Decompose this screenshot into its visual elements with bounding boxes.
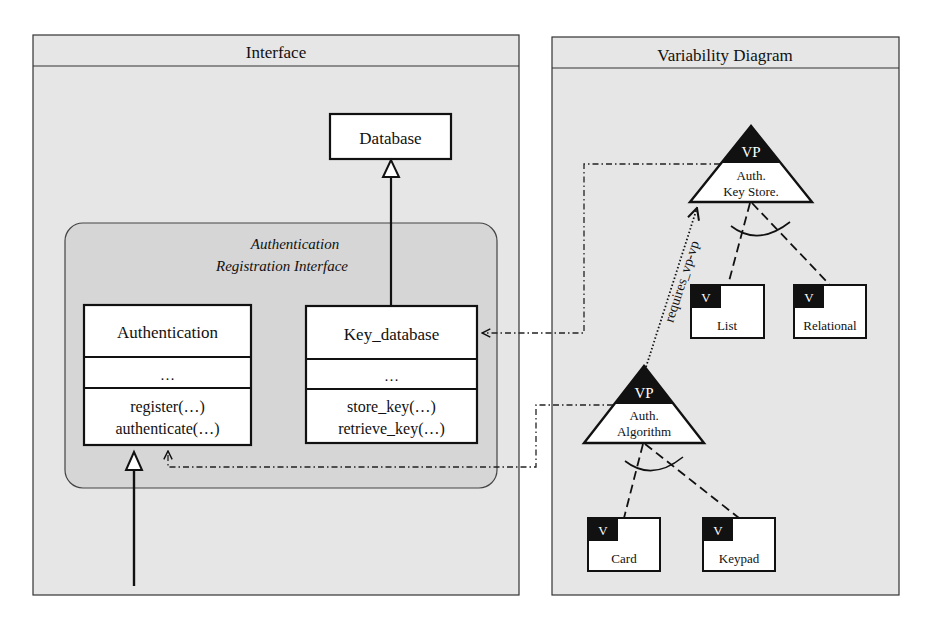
variant-card[interactable]: V Card xyxy=(588,518,660,571)
key-database-class[interactable]: Key_database … store_key(…) retrieve_key… xyxy=(306,306,477,443)
variant-name: Relational xyxy=(803,318,857,333)
vp-algorithm-line1: Auth. xyxy=(629,408,658,423)
vp-algorithm-line2: Algorithm xyxy=(617,424,671,439)
key-database-class-name: Key_database xyxy=(344,325,439,344)
key-database-op: retrieve_key(…) xyxy=(338,420,445,438)
variant-keypad[interactable]: V Keypad xyxy=(703,518,775,571)
authentication-class-name: Authentication xyxy=(117,323,219,342)
variant-name: Card xyxy=(611,551,637,566)
variant-tag: V xyxy=(701,290,711,305)
variant-relational[interactable]: V Relational xyxy=(794,285,866,338)
authentication-attributes: … xyxy=(160,367,175,383)
authentication-class[interactable]: Authentication … register(…) authenticat… xyxy=(84,305,251,445)
key-database-op: store_key(…) xyxy=(347,398,436,416)
vp-keystore-line2: Key Store. xyxy=(723,184,779,199)
authentication-op: register(…) xyxy=(130,398,205,416)
variability-panel-title: Variability Diagram xyxy=(657,46,793,65)
vp-tag: VP xyxy=(741,144,760,160)
variant-tag: V xyxy=(598,523,608,538)
variant-tag: V xyxy=(804,290,814,305)
group-label-line2: Registration Interface xyxy=(215,258,348,274)
vp-keystore-line1: Auth. xyxy=(736,168,765,183)
variant-tag: V xyxy=(713,523,723,538)
interface-panel-title: Interface xyxy=(246,43,306,62)
diagram-canvas: Interface Database Authentication Regist… xyxy=(0,0,933,622)
database-class-name: Database xyxy=(359,129,421,148)
vp-tag: VP xyxy=(634,385,653,401)
group-label-line1: Authentication xyxy=(250,236,339,252)
authentication-op: authenticate(…) xyxy=(116,420,220,438)
variant-name: Keypad xyxy=(719,551,760,566)
database-class[interactable]: Database xyxy=(330,114,451,159)
variant-list[interactable]: V List xyxy=(691,285,764,338)
key-database-attributes: … xyxy=(384,368,399,384)
variant-name: List xyxy=(717,318,738,333)
